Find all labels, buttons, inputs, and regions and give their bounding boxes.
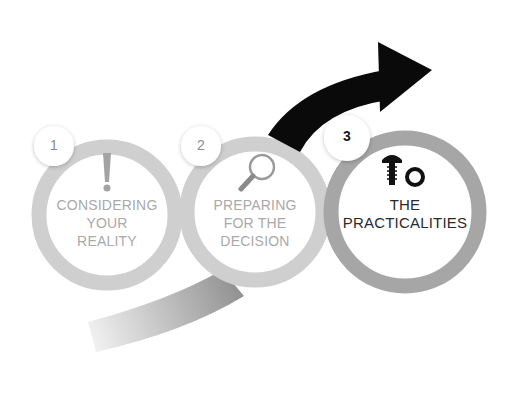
step-2-line-2: FOR THE: [195, 214, 315, 232]
step-3-line-2: PRACTICALITIES: [335, 214, 475, 232]
step-2-number: 2: [191, 137, 211, 153]
step-2-line-1: PREPARING: [195, 196, 315, 214]
step-1-line-1: CONSIDERING: [47, 196, 167, 214]
step-1-label: CONSIDERING YOUR REALITY: [47, 196, 167, 250]
step-3-number: 3: [336, 128, 358, 144]
step-3-line-1: THE: [335, 196, 475, 214]
step-1-line-2: YOUR: [47, 214, 167, 232]
step-1-number: 1: [44, 137, 64, 153]
step-2-label: PREPARING FOR THE DECISION: [195, 196, 315, 250]
step-2-line-3: DECISION: [195, 232, 315, 250]
process-diagram: 1 2 3 CONSIDERING YOUR REALITY PREPARING…: [0, 0, 518, 399]
step-1-line-3: REALITY: [47, 232, 167, 250]
step-3-label: THE PRACTICALITIES: [335, 196, 475, 232]
